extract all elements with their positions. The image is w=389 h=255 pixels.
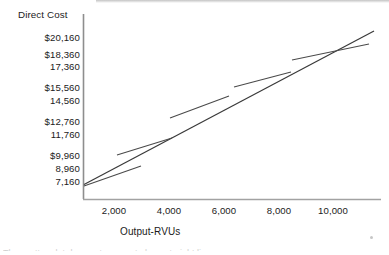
y-tick-label-7160: 7,160 [8, 176, 80, 187]
x-tick-label-8000: 8,000 [251, 205, 307, 216]
y-tick-label-11760: 11,760 [8, 129, 80, 140]
x-tick-label-4000: 4,000 [141, 205, 197, 216]
y-tick-label-18360: $18,360 [8, 49, 80, 60]
y-tick-label-9960: $9,960 [8, 150, 80, 161]
y-tick-label-8960: 8,960 [8, 163, 80, 174]
scan-artifact-bottom [0, 251, 389, 255]
scan-speck [370, 236, 373, 239]
x-axis-title: Output-RVUs [120, 226, 180, 237]
y-tick-label-17360: 17,360 [8, 61, 80, 72]
x-tick-label-10000: 10,000 [305, 205, 361, 216]
regression-line [84, 31, 374, 185]
y-tick-label-20160: $20,160 [8, 32, 80, 43]
figure-page: Direct Cost $20,160 $18,360 17,360 $15,5… [0, 0, 389, 255]
cost-segment-3 [170, 96, 229, 118]
y-tick-label-14560: 14,560 [8, 95, 80, 106]
x-tick-label-2000: 2,000 [86, 205, 142, 216]
y-tick-label-15560: $15,560 [8, 82, 80, 93]
y-axis-title: Direct Cost [18, 9, 68, 20]
y-tick-label-12760: $12,760 [8, 116, 80, 127]
x-tick-label-6000: 6,000 [196, 205, 252, 216]
cost-segment-5 [292, 44, 369, 60]
